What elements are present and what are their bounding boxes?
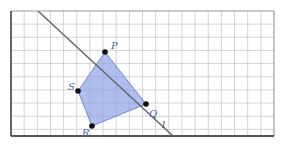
quadrilateral-pqrs <box>78 52 146 126</box>
geometry-diagram: PQRSl <box>0 0 284 152</box>
label-p: P <box>110 40 118 51</box>
label-q: Q <box>149 108 157 119</box>
label-s: S <box>68 81 75 92</box>
diagram-container: PQRSl <box>0 0 284 152</box>
point-q-icon <box>143 101 149 107</box>
point-r-icon <box>89 123 95 129</box>
label-r: R <box>81 127 90 138</box>
label-line-l: l <box>162 119 165 130</box>
grid-lines <box>11 11 274 136</box>
point-s-icon <box>75 88 81 94</box>
point-p-icon <box>102 49 108 55</box>
